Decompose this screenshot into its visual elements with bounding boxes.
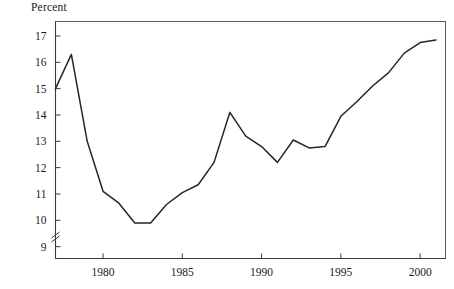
y-tick-label: 12 (35, 162, 47, 174)
x-axis-ticks: 19801985199019952000 (92, 254, 432, 278)
x-tick-label: 1985 (171, 266, 194, 278)
y-tick-label: 17 (35, 30, 47, 42)
y-tick-label: 14 (35, 109, 47, 121)
x-tick-label: 1980 (92, 266, 115, 278)
y-tick-label: 16 (35, 56, 47, 68)
x-tick-label: 1995 (329, 266, 352, 278)
y-tick-label: 10 (35, 214, 47, 226)
x-tick-label: 1990 (250, 266, 273, 278)
x-tick-label: 2000 (409, 266, 432, 278)
chart-figure: Percent 91011121314151617 19801985199019… (0, 0, 454, 289)
series-line-percent (56, 40, 436, 223)
y-tick-label: 15 (35, 83, 47, 95)
y-tick-label: 9 (41, 241, 47, 253)
line-chart-plot: 91011121314151617 19801985199019952000 (0, 0, 454, 289)
y-tick-label: 11 (35, 188, 46, 200)
y-axis-ticks: 91011121314151617 (35, 30, 61, 253)
y-tick-label: 13 (35, 135, 47, 147)
